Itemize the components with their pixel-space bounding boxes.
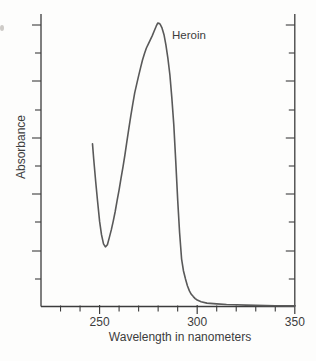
x-tick-labels: 250300350 [90,315,306,329]
y-axis-title: Absorbance [14,115,28,179]
heroin-spectrum-curve [93,23,295,306]
absorbance-spectrum-chart: 250300350 Heroin Absorbance Wavelength i… [0,0,316,361]
x-tick-label: 250 [90,315,110,329]
heroin-absorbance-figure: 250300350 Heroin Absorbance Wavelength i… [0,0,316,361]
x-axis-title: Wavelength in nanometers [109,330,251,344]
x-tick-label: 300 [187,315,207,329]
axis-ticks [32,25,295,314]
series-annotation-heroin: Heroin [172,29,206,41]
x-tick-label: 350 [285,315,305,329]
scan-artifact [0,25,4,31]
